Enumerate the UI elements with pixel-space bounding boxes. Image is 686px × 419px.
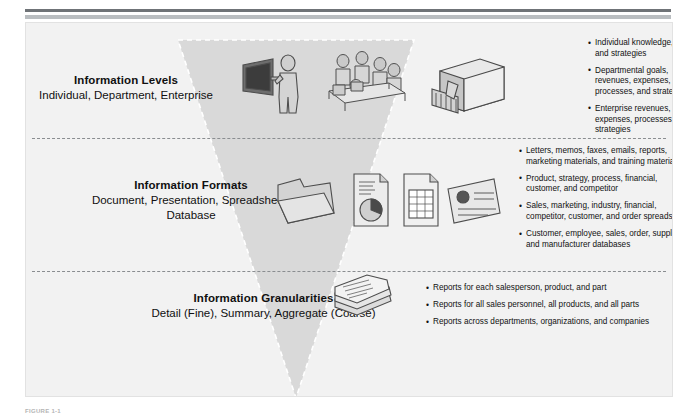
formats-title: Information Formats: [76, 178, 306, 193]
list-item: Customer, employee, sales, order, suppli…: [519, 229, 673, 250]
list-item: Sales, marketing, industry, financial, c…: [519, 201, 673, 222]
figure-caption: FIGURE 1-1: [25, 408, 325, 414]
figure-page: Information Levels Individual, Departmen…: [0, 0, 686, 419]
top-rule-dark: [25, 9, 671, 12]
list-item: Reports across departments, organization…: [426, 317, 656, 328]
divider-levels-formats: [32, 138, 666, 139]
top-rule-light: [25, 15, 671, 19]
section-label-levels: Information Levels Individual, Departmen…: [26, 73, 226, 103]
meeting-table-people-icon: [323, 45, 413, 121]
list-item: Departmental goals, revenues, expenses, …: [588, 66, 673, 98]
presentation-piechart-icon: [348, 170, 394, 236]
person-at-monitor-icon: [233, 51, 311, 123]
list-item: Individual knowledge, goals, and strateg…: [588, 38, 673, 59]
list-item: Enterprise revenues, expenses, processes…: [588, 104, 673, 136]
levels-subtitle: Individual, Department, Enterprise: [26, 88, 226, 103]
spreadsheet-grid-icon: [398, 170, 444, 236]
enterprise-building-icon: [428, 53, 510, 121]
list-item: Letters, memos, faxes, emails, reports, …: [519, 146, 673, 167]
document-folder-icon: [274, 173, 344, 235]
granularities-bullets: Reports for each salesperson, product, a…: [426, 283, 656, 334]
levels-title: Information Levels: [26, 73, 226, 88]
formats-subtitle: Document, Presentation, Spreadsheet, Dat…: [76, 193, 306, 223]
section-label-formats: Information Formats Document, Presentati…: [76, 178, 306, 223]
stacked-reports-icon: [329, 269, 409, 329]
list-item: Product, strategy, process, financial, c…: [519, 174, 673, 195]
formats-bullets: Letters, memos, faxes, emails, reports, …: [519, 146, 673, 257]
figure-panel: Information Levels Individual, Departmen…: [25, 22, 673, 397]
levels-bullets: Individual knowledge, goals, and strateg…: [588, 38, 673, 142]
database-card-icon: [444, 175, 506, 235]
list-item: Reports for each salesperson, product, a…: [426, 283, 656, 294]
list-item: Reports for all sales personnel, all pro…: [426, 300, 656, 311]
